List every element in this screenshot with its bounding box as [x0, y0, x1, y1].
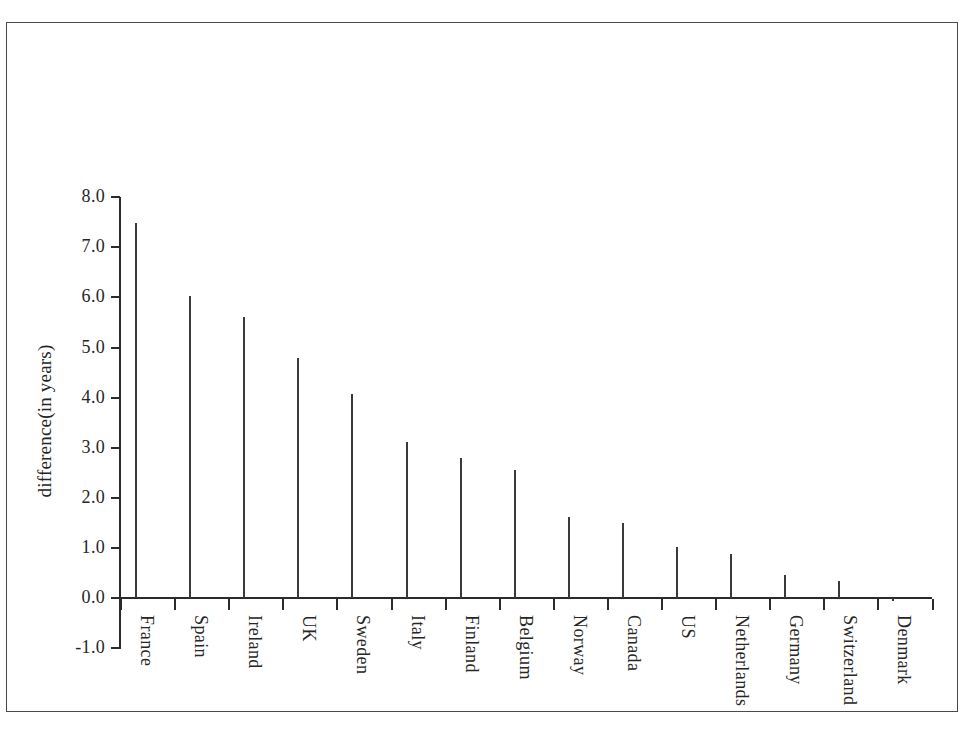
- y-axis-tick-label-text: 5.0: [59, 338, 105, 356]
- y-axis-tick-label-text: 2.0: [59, 488, 105, 506]
- x-axis-line: [119, 597, 932, 599]
- x-axis-category-label: Belgium: [517, 615, 535, 680]
- y-axis-title: difference(in years): [34, 306, 56, 536]
- y-axis-tick: [111, 397, 120, 399]
- y-axis-tick-label-text: 0.0: [59, 588, 105, 606]
- bar: [297, 358, 299, 598]
- y-axis-tick-label: 2.0: [55, 488, 105, 506]
- x-axis-category-label: Finland: [463, 615, 481, 673]
- bar: [243, 317, 245, 598]
- bar: [730, 554, 732, 598]
- bar: [189, 296, 191, 598]
- y-axis-tick: [111, 497, 120, 499]
- x-axis-category-label: Norway: [571, 615, 589, 675]
- y-axis-tick-label-text: 8.0: [59, 187, 105, 205]
- x-axis-tick: [391, 599, 393, 610]
- y-axis-tick-label-text: 6.0: [59, 287, 105, 305]
- x-axis-tick: [661, 599, 663, 610]
- y-axis-tick-label-text: 1.0: [59, 538, 105, 556]
- y-axis-tick-label-text: 7.0: [59, 237, 105, 255]
- y-axis-tick: [111, 296, 120, 298]
- y-axis-tick: [111, 246, 120, 248]
- x-axis-tick: [282, 599, 284, 610]
- x-axis-category-label: France: [138, 615, 156, 666]
- bar: [676, 547, 678, 598]
- bar: [514, 470, 516, 598]
- y-axis-tick-label: 0.0: [55, 588, 105, 606]
- bar: [351, 394, 353, 598]
- x-axis-tick: [877, 599, 879, 610]
- x-axis-category-label: Ireland: [246, 615, 264, 669]
- bar: [892, 598, 894, 601]
- x-axis-tick: [174, 599, 176, 610]
- y-axis-tick-label-text: -1.0: [59, 638, 105, 656]
- x-axis-tick: [769, 599, 771, 610]
- bar: [838, 581, 840, 598]
- y-axis-tick: [111, 647, 120, 649]
- y-axis-tick-label: 8.0: [55, 187, 105, 205]
- x-axis-category-label: Netherlands: [733, 615, 751, 706]
- x-axis-tick: [336, 599, 338, 610]
- x-axis-tick: [932, 599, 934, 610]
- bar: [622, 523, 624, 598]
- x-axis-category-label: Switzerland: [841, 615, 859, 705]
- x-axis-tick: [553, 599, 555, 610]
- y-axis-tick-label: 3.0: [55, 438, 105, 456]
- y-axis-tick-label-text: 4.0: [59, 388, 105, 406]
- bar: [568, 517, 570, 598]
- y-axis-tick-label: -1.0: [55, 638, 105, 656]
- x-axis-category-label: UK: [300, 615, 318, 642]
- x-axis-tick: [499, 599, 501, 610]
- y-axis-tick-label-text: 3.0: [59, 438, 105, 456]
- bar: [460, 458, 462, 598]
- x-axis-category-label: Denmark: [895, 615, 913, 685]
- x-axis-category-label: US: [679, 615, 697, 639]
- bar: [784, 575, 786, 598]
- x-axis-category-label: Canada: [625, 615, 643, 671]
- x-axis-category-label: Sweden: [354, 615, 372, 674]
- y-axis-tick: [111, 447, 120, 449]
- x-axis-tick: [607, 599, 609, 610]
- y-axis-line: [119, 197, 121, 649]
- y-axis-tick-label: 4.0: [55, 388, 105, 406]
- y-axis-tick: [111, 196, 120, 198]
- x-axis-tick: [715, 599, 717, 610]
- y-axis-tick-label: 1.0: [55, 538, 105, 556]
- x-axis-tick: [445, 599, 447, 610]
- x-axis-category-label: Italy: [409, 615, 427, 650]
- y-axis-tick-label: 6.0: [55, 287, 105, 305]
- bar: [406, 442, 408, 598]
- x-axis-tick: [823, 599, 825, 610]
- y-axis-tick: [111, 547, 120, 549]
- x-axis-tick: [120, 599, 122, 610]
- y-axis-tick: [111, 347, 120, 349]
- bar-chart: difference(in years) 8.07.06.05.04.03.02…: [0, 0, 972, 736]
- bar: [135, 223, 137, 598]
- x-axis-category-label: Spain: [192, 615, 210, 658]
- y-axis-tick: [111, 597, 120, 599]
- y-axis-tick-label: 7.0: [55, 237, 105, 255]
- x-axis-category-label: Germany: [787, 615, 805, 685]
- y-axis-tick-label: 5.0: [55, 338, 105, 356]
- x-axis-tick: [228, 599, 230, 610]
